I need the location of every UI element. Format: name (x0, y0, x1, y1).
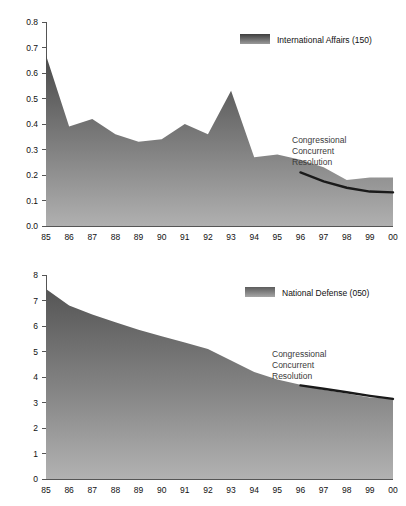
y-tick-label: 0.8 (26, 17, 38, 27)
x-tick-label: 90 (157, 485, 167, 495)
x-tick-label: 87 (88, 232, 98, 242)
x-tick-label: 99 (365, 232, 375, 242)
x-tick-label: 88 (111, 485, 121, 495)
x-tick-label: 89 (134, 232, 144, 242)
y-tick-label: 0.5 (26, 94, 38, 104)
x-tick-label: 97 (319, 485, 329, 495)
chart-panel-national-defense: 012345678 858687888990919293949596979899… (0, 253, 406, 506)
annotation-line-3: Resolution (292, 157, 332, 167)
x-tick-label: 99 (365, 485, 375, 495)
international-affairs-chart: 0.00.10.20.30.40.50.60.70.8 858687888990… (0, 0, 406, 253)
y-tick-label: 6 (33, 321, 38, 331)
x-tick-label: 95 (273, 232, 283, 242)
x-tick-label: 92 (203, 232, 213, 242)
y-tick-label: 5 (33, 347, 38, 357)
x-tick-label: 96 (296, 485, 306, 495)
legend-national-defense: National Defense (050) (245, 287, 370, 298)
annotation-ccr-bottom: Congressional Concurrent Resolution (272, 349, 326, 381)
x-tick-label: 00 (388, 485, 398, 495)
y-tick-label: 4 (33, 372, 38, 382)
x-tick-label: 98 (342, 485, 352, 495)
legend-swatch-icon (245, 287, 275, 297)
annotation-line-3: Resolution (272, 371, 312, 381)
x-tick-label: 93 (226, 485, 236, 495)
y-tick-label: 2 (33, 423, 38, 433)
y-tick-label: 7 (33, 296, 38, 306)
x-tick-label: 91 (180, 485, 190, 495)
chart-panel-international-affairs: 0.00.10.20.30.40.50.60.70.8 858687888990… (0, 0, 406, 253)
annotation-ccr-top: Congressional Concurrent Resolution (292, 135, 346, 167)
x-tick-label: 87 (88, 485, 98, 495)
y-tick-label: 0 (33, 474, 38, 484)
x-tick-label: 94 (249, 232, 259, 242)
annotation-line-1: Congressional (272, 349, 326, 359)
legend-international-affairs: International Affairs (150) (240, 34, 372, 45)
annotation-line-2: Concurrent (292, 146, 335, 156)
national-defense-chart: 012345678 858687888990919293949596979899… (0, 253, 406, 506)
x-tick-label: 85 (41, 485, 51, 495)
x-tick-label: 96 (296, 232, 306, 242)
x-axis-ticks-bottom: 85868788899091929394959697989900 (41, 479, 398, 495)
x-tick-label: 91 (180, 232, 190, 242)
y-tick-label: 0.6 (26, 68, 38, 78)
legend-label-international-affairs: International Affairs (150) (277, 35, 372, 45)
x-tick-label: 97 (319, 232, 329, 242)
x-tick-label: 95 (273, 485, 283, 495)
y-tick-label: 3 (33, 398, 38, 408)
y-tick-label: 0.4 (26, 119, 38, 129)
x-tick-label: 88 (111, 232, 121, 242)
y-tick-label: 0.3 (26, 145, 38, 155)
x-tick-label: 86 (64, 232, 74, 242)
y-tick-label: 8 (33, 270, 38, 280)
x-tick-label: 00 (388, 232, 398, 242)
y-tick-label: 0.7 (26, 43, 38, 53)
x-tick-label: 93 (226, 232, 236, 242)
annotation-line-2: Concurrent (272, 360, 315, 370)
x-tick-label: 86 (64, 485, 74, 495)
x-tick-label: 94 (249, 485, 259, 495)
y-tick-label: 0.1 (26, 196, 38, 206)
area-series-national-defense (46, 289, 393, 479)
x-tick-label: 89 (134, 485, 144, 495)
x-axis-ticks-top: 85868788899091929394959697989900 (41, 226, 398, 242)
legend-label-national-defense: National Defense (050) (282, 288, 370, 298)
y-axis-ticks-top: 0.00.10.20.30.40.50.60.70.8 (26, 17, 46, 231)
y-tick-label: 1 (33, 449, 38, 459)
x-tick-label: 92 (203, 485, 213, 495)
figure-root: 0.00.10.20.30.40.50.60.70.8 858687888990… (0, 0, 406, 506)
y-tick-label: 0.2 (26, 170, 38, 180)
annotation-line-1: Congressional (292, 135, 346, 145)
x-tick-label: 85 (41, 232, 51, 242)
legend-swatch-icon (240, 34, 270, 44)
y-axis-ticks-bottom: 012345678 (33, 270, 46, 484)
x-tick-label: 90 (157, 232, 167, 242)
y-tick-label: 0.0 (26, 221, 38, 231)
x-tick-label: 98 (342, 232, 352, 242)
